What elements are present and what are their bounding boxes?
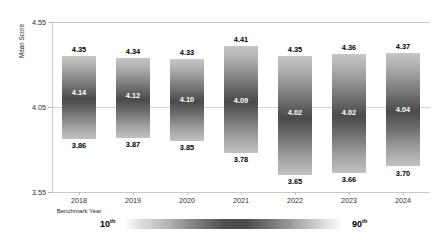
gridline-4.55 [52,22,430,23]
x-tick-mark-2022 [295,192,296,195]
bar-bottom-value-2022: 3.65 [270,177,320,186]
x-tick-mark-2023 [349,192,350,195]
bar-bottom-value-2023: 3.66 [324,175,374,184]
legend-gradient-bar [124,219,342,229]
bar-mean-value-2023: 4.02 [324,108,374,117]
bar-mean-value-2021: 4.09 [216,96,266,105]
x-axis-title: Benchmark Year [34,207,124,214]
x-tick-mark-2024 [403,192,404,195]
bar-mean-value-2024: 4.04 [378,105,428,114]
y-tick-label-4.55: 4.55 [32,18,46,27]
legend: 10th 90th [0,216,443,232]
bar-top-value-2022: 4.35 [270,45,320,54]
bar-mean-value-2018: 4.14 [54,88,104,97]
bar-bottom-value-2021: 3.78 [216,155,266,164]
bar-bottom-value-2018: 3.86 [54,141,104,150]
bar-top-value-2020: 4.33 [162,48,212,57]
legend-high-label: 90th [352,218,367,229]
bar-top-value-2019: 4.34 [108,47,158,56]
bar-mean-value-2020: 4.10 [162,95,212,104]
bar-mean-value-2022: 4.02 [270,108,320,117]
x-tick-mark-2018 [79,192,80,195]
y-tick-mark [48,107,52,108]
x-tick-mark-2019 [133,192,134,195]
x-tick-mark-2021 [241,192,242,195]
bar-bottom-value-2020: 3.85 [162,143,212,152]
bar-2018[interactable] [62,56,96,139]
y-tick-mark [48,22,52,23]
mean-score-percentile-chart: Mean Score 3.554.054.554.353.864.144.343… [0,0,443,240]
bar-bottom-value-2024: 3.70 [378,169,428,178]
x-tick-label-2024: 2024 [368,196,438,205]
legend-low-label: 10th [100,218,115,229]
bar-top-value-2021: 4.41 [216,35,266,44]
plot-area: 3.554.054.554.353.864.144.343.874.124.33… [52,22,430,192]
y-tick-mark [48,192,52,193]
bar-top-value-2018: 4.35 [54,45,104,54]
bar-bottom-value-2019: 3.87 [108,140,158,149]
bar-top-value-2024: 4.37 [378,42,428,51]
bar-mean-value-2019: 4.12 [108,91,158,100]
x-tick-mark-2020 [187,192,188,195]
y-tick-label-4.05: 4.05 [32,103,46,112]
bar-top-value-2023: 4.36 [324,43,374,52]
y-axis-title: Mean Score [18,24,25,58]
